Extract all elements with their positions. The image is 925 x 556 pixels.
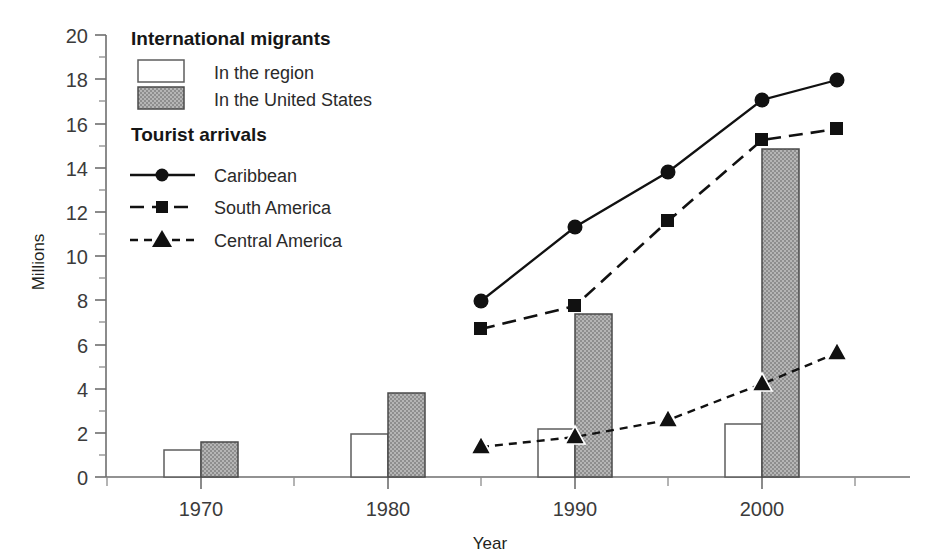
chart-container: 20 18 16 14 12 10 8 6 4 2 0 Millions <box>0 0 925 556</box>
x-tick-label: 1970 <box>179 498 224 520</box>
y-axis-title-text: Millions <box>29 234 48 291</box>
legend-entry-in-the-united-states[interactable]: In the United States <box>138 87 372 110</box>
legend-label-in-the-united-states: In the United States <box>214 90 372 110</box>
marker-circle <box>568 220 583 235</box>
legend-entry-in-the-region[interactable]: In the region <box>138 60 314 83</box>
y-tick-label: 0 <box>77 467 88 489</box>
y-tick-label: 10 <box>66 246 88 268</box>
x-tick-label: 1990 <box>553 498 598 520</box>
y-tick-label: 14 <box>66 158 88 180</box>
marker-square <box>830 122 843 135</box>
legend-marker-square <box>156 201 168 213</box>
bar-us-1990 <box>575 314 612 477</box>
marker-circle <box>474 294 489 309</box>
legend-swatch-open-rect <box>138 60 184 82</box>
legend-label-in-the-region: In the region <box>214 63 314 83</box>
y-tick-label: 8 <box>77 290 88 312</box>
legend-heading-tourist-arrivals: Tourist arrivals <box>131 124 267 145</box>
legend-marker-circle <box>156 169 169 182</box>
bar-us-1970 <box>201 442 238 477</box>
y-tick-label: 2 <box>77 423 88 445</box>
bar-us-2000 <box>762 149 799 477</box>
marker-circle <box>830 73 845 88</box>
legend-label-central-america: Central America <box>214 231 343 251</box>
y-tick-label: 20 <box>66 25 88 47</box>
marker-circle <box>661 165 676 180</box>
y-axis-title: Millions <box>29 234 48 291</box>
marker-square <box>568 299 581 312</box>
y-tick-label: 4 <box>77 379 88 401</box>
y-tick-label: 6 <box>77 335 88 357</box>
marker-circle <box>755 93 770 108</box>
bar-region-1970 <box>164 450 201 477</box>
legend-heading-migrants: International migrants <box>131 28 331 49</box>
legend-label-caribbean: Caribbean <box>214 166 297 186</box>
bar-us-1980 <box>388 393 425 477</box>
marker-square <box>755 133 768 146</box>
y-tick-label: 16 <box>66 114 88 136</box>
bar-region-2000 <box>725 424 762 477</box>
x-axis-title-text: Year <box>473 534 508 553</box>
x-tick-label: 1980 <box>366 498 411 520</box>
y-tick-label: 18 <box>66 69 88 91</box>
y-tick-label: 12 <box>66 202 88 224</box>
bar-region-1980 <box>351 434 388 477</box>
marker-square <box>474 322 487 335</box>
migrants-tourist-arrivals-chart: 20 18 16 14 12 10 8 6 4 2 0 Millions <box>0 0 925 556</box>
marker-square <box>661 214 674 227</box>
x-tick-label: 2000 <box>740 498 785 520</box>
x-axis-title: Year <box>473 534 508 553</box>
legend-swatch-gray-rect <box>138 87 184 109</box>
legend-label-south-america: South America <box>214 198 332 218</box>
